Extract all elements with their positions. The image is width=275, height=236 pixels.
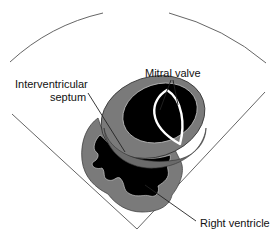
mitral-valve-label: Mitral valve xyxy=(145,67,201,79)
right-ventricle-label: Right ventricle xyxy=(200,217,270,229)
sector-arc-right xyxy=(169,13,266,63)
septum-label-line1: Interventricular xyxy=(15,78,88,90)
septum-label-line2: septum xyxy=(50,91,86,103)
echo-diagram: Mitral valve Interventricular septum Rig… xyxy=(0,0,275,236)
sector-arc-left xyxy=(10,13,103,62)
